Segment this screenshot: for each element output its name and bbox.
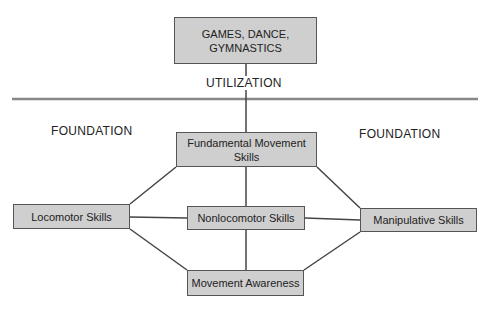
fms-line2: Skills: [187, 150, 306, 164]
fundamental-movement-skills-box: Fundamental Movement Skills: [176, 132, 317, 167]
games-dance-gymnastics-box: GAMES, DANCE, GYMNASTICS: [174, 17, 317, 64]
foundation-right-label: FOUNDATION: [359, 127, 440, 141]
diagram-canvas: GAMES, DANCE, GYMNASTICS UTILIZATION FOU…: [0, 0, 492, 310]
top-box-line1: GAMES, DANCE,: [202, 27, 289, 41]
locomotor-skills-box: Locomotor Skills: [13, 204, 130, 229]
locomotor-label: Locomotor Skills: [31, 210, 112, 224]
nonlocomotor-skills-box: Nonlocomotor Skills: [187, 206, 305, 230]
awareness-label: Movement Awareness: [191, 276, 299, 290]
manipulative-label: Manipulative Skills: [373, 213, 463, 227]
nonlocomotor-label: Nonlocomotor Skills: [197, 211, 294, 225]
movement-awareness-box: Movement Awareness: [187, 270, 304, 296]
fms-line1: Fundamental Movement: [187, 136, 306, 150]
manipulative-skills-box: Manipulative Skills: [360, 208, 477, 232]
utilization-label: UTILIZATION: [206, 76, 282, 90]
top-box-line2: GYMNASTICS: [202, 41, 289, 55]
foundation-left-label: FOUNDATION: [51, 124, 132, 138]
